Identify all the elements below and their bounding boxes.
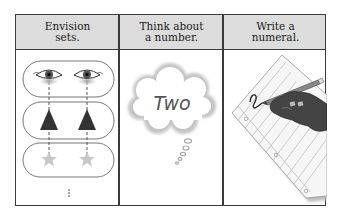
thought-bubbles xyxy=(176,139,192,164)
thought-cloud-illustration: Two xyxy=(120,50,223,207)
three-step-table: Envision sets. Think about a number. Wri… xyxy=(15,14,326,206)
triangles-set-pill xyxy=(23,102,114,139)
eye-icon xyxy=(74,70,103,85)
triangle-icon xyxy=(78,109,96,130)
star-icon xyxy=(79,151,95,167)
writing-hand-illustration xyxy=(224,50,327,207)
header-envision-sets: Envision sets. xyxy=(16,15,119,49)
header-think-number: Think about a number. xyxy=(120,15,223,49)
triangle-icon xyxy=(40,109,58,130)
eye-icon xyxy=(33,70,62,85)
sets-illustration xyxy=(16,50,119,207)
header-write-numeral: Write a numeral. xyxy=(224,15,327,49)
eyes-set-pill xyxy=(23,61,114,97)
cloud-word: Two xyxy=(153,92,190,114)
star-icon xyxy=(41,151,57,167)
stars-set-pill xyxy=(23,143,114,177)
table-header: Envision sets. Think about a number. Wri… xyxy=(16,15,325,50)
